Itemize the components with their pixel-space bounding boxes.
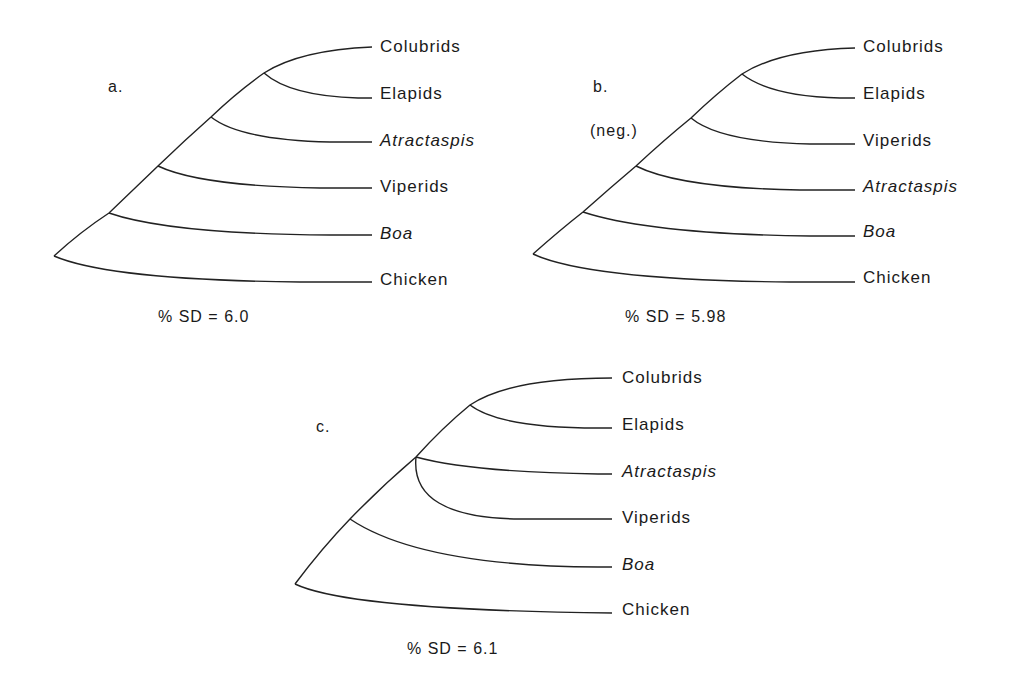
taxon-label: Boa: [863, 222, 896, 242]
tree-b-branches: [533, 48, 855, 282]
taxon-label: Viperids: [622, 508, 691, 528]
panel-label-b: b.: [593, 78, 608, 96]
taxon-label: Atractaspis: [380, 131, 475, 151]
taxon-label: Chicken: [380, 270, 448, 290]
taxon-label: Elapids: [863, 84, 926, 104]
taxon-label: Boa: [380, 224, 413, 244]
taxon-label: Boa: [622, 555, 655, 575]
taxon-label: Atractaspis: [863, 177, 958, 197]
neg-note: (neg.): [590, 122, 638, 140]
taxon-label: Colubrids: [380, 37, 461, 57]
taxon-label: Chicken: [863, 268, 931, 288]
panel-label-a: a.: [108, 78, 123, 96]
panel-label-c: c.: [316, 418, 330, 436]
taxon-label: Viperids: [380, 177, 449, 197]
taxon-label: Chicken: [622, 600, 690, 620]
sd-label-c: % SD = 6.1: [407, 640, 498, 658]
taxon-label: Colubrids: [863, 37, 944, 57]
taxon-label: Atractaspis: [622, 462, 717, 482]
sd-label-b: % SD = 5.98: [625, 308, 726, 326]
tree-a-branches: [54, 47, 372, 282]
taxon-label: Elapids: [380, 84, 443, 104]
taxon-label: Elapids: [622, 415, 685, 435]
tree-c-branches: [295, 378, 612, 613]
taxon-label: Viperids: [863, 131, 932, 151]
sd-label-a: % SD = 6.0: [158, 308, 249, 326]
taxon-label: Colubrids: [622, 368, 703, 388]
